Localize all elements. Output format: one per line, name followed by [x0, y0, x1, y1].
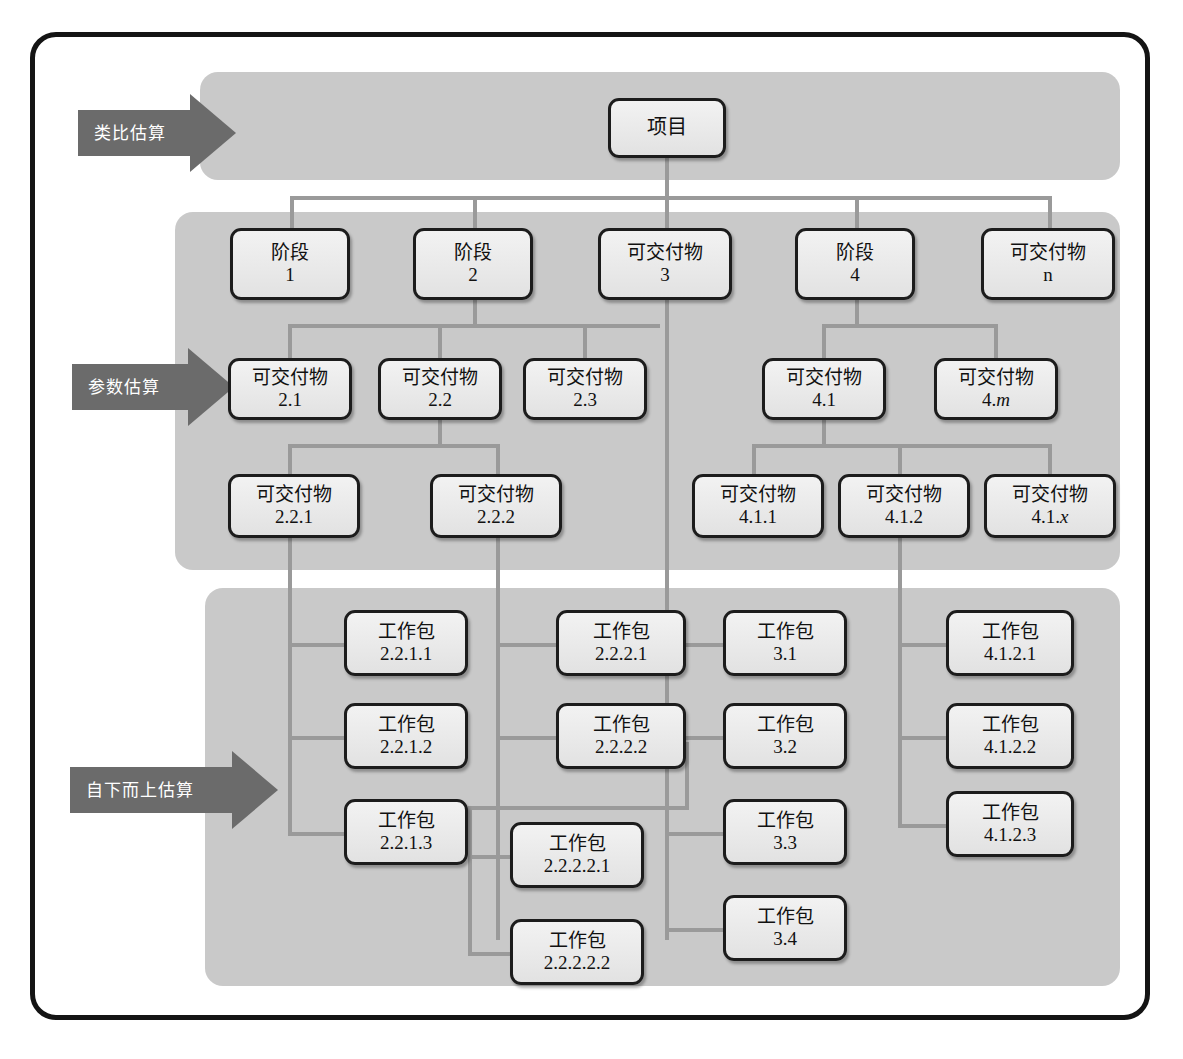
connector-stem-d41 — [822, 420, 826, 446]
node-phase-2-id: 2 — [468, 264, 478, 285]
connector-drop-l1-1 — [290, 196, 294, 228]
connector-branch-wp2222 — [496, 736, 556, 740]
node-deliverable-2-2-1[interactable]: 可交付物 2.2.1 — [228, 474, 360, 538]
node-deliverable-n[interactable]: 可交付物 n — [981, 228, 1115, 300]
connector-branch-wp2221 — [496, 643, 556, 647]
node-deliverable-4-1-id: 4.1 — [812, 389, 836, 410]
node-workpackage-2-2-2-2-2-id: 2.2.2.2.2 — [544, 952, 611, 973]
node-deliverable-4-1-1[interactable]: 可交付物 4.1.1 — [692, 474, 824, 538]
node-workpackage-2-2-2-2-2[interactable]: 工作包 2.2.2.2.2 — [510, 919, 644, 985]
node-workpackage-2-2-1-3[interactable]: 工作包 2.2.1.3 — [344, 799, 468, 865]
connector-stem-d22 — [438, 420, 442, 446]
node-deliverable-2-1-id: 2.1 — [278, 389, 302, 410]
node-deliverable-2-2-id: 2.2 — [428, 389, 452, 410]
node-workpackage-2-2-2-2-id: 2.2.2.2 — [595, 736, 647, 757]
connector-drop-d222 — [496, 444, 500, 474]
connector-drop-d4m — [994, 324, 998, 358]
node-phase-1[interactable]: 阶段 1 — [230, 228, 350, 300]
node-phase-1-id: 1 — [285, 264, 295, 285]
connector-drop-l1-4 — [855, 196, 859, 228]
node-deliverable-4-1-x[interactable]: 可交付物 4.1.x — [984, 474, 1116, 538]
node-deliverable-4-1[interactable]: 可交付物 4.1 — [762, 358, 886, 420]
connector-stem-phase4 — [855, 300, 859, 326]
node-workpackage-3-3-type: 工作包 — [757, 811, 814, 832]
node-deliverable-3[interactable]: 可交付物 3 — [598, 228, 732, 300]
node-phase-2[interactable]: 阶段 2 — [413, 228, 533, 300]
node-workpackage-2-2-1-2[interactable]: 工作包 2.2.1.2 — [344, 703, 468, 769]
node-workpackage-4-1-2-3[interactable]: 工作包 4.1.2.3 — [946, 791, 1074, 857]
node-deliverable-2-1-type: 可交付物 — [252, 368, 328, 389]
node-deliverable-3-id: 3 — [660, 264, 670, 285]
connector-branch-wp2211 — [288, 643, 344, 647]
node-deliverable-4-1-type: 可交付物 — [786, 368, 862, 389]
connector-back-wp2222 — [468, 806, 689, 810]
arrow-parametric-label: 参数估算 — [72, 379, 160, 396]
connector-spine-d221 — [288, 538, 292, 836]
connector-bus-d22 — [288, 444, 500, 448]
node-deliverable-2-1[interactable]: 可交付物 2.1 — [228, 358, 352, 420]
node-workpackage-2-2-2-2-1[interactable]: 工作包 2.2.2.2.1 — [510, 822, 644, 888]
connector-branch-wp22221 — [468, 855, 510, 859]
node-deliverable-2-3[interactable]: 可交付物 2.3 — [523, 358, 647, 420]
connector-root-stem — [665, 158, 669, 200]
connector-drop-d411 — [752, 444, 756, 474]
connector-branch-wp4121 — [898, 643, 946, 647]
arrow-parametric: 参数估算 — [72, 347, 240, 427]
connector-drop-l1-3 — [665, 196, 669, 228]
connector-branch-wp4122 — [898, 736, 946, 740]
node-deliverable-4-1-x-id: 4.1.x — [1032, 506, 1069, 527]
node-deliverable-4-1-x-type: 可交付物 — [1012, 485, 1088, 506]
node-deliverable-2-2-2[interactable]: 可交付物 2.2.2 — [430, 474, 562, 538]
connector-level1-bus — [290, 196, 1052, 200]
node-deliverable-4-1-2-type: 可交付物 — [866, 485, 942, 506]
node-workpackage-3-3[interactable]: 工作包 3.3 — [723, 799, 847, 865]
node-phase-4-type: 阶段 — [836, 243, 874, 264]
connector-drop-d22 — [438, 324, 442, 358]
node-workpackage-3-4[interactable]: 工作包 3.4 — [723, 895, 847, 961]
arrow-bottom-up-label: 自下而上估算 — [70, 782, 194, 799]
connector-drop-d41x — [1048, 444, 1052, 474]
node-deliverable-4-1-2-id: 4.1.2 — [885, 506, 923, 527]
node-workpackage-2-2-2-1[interactable]: 工作包 2.2.2.1 — [556, 610, 686, 676]
node-workpackage-2-2-1-2-id: 2.2.1.2 — [380, 736, 432, 757]
node-deliverable-4-m[interactable]: 可交付物 4.m — [934, 358, 1058, 420]
node-workpackage-3-2[interactable]: 工作包 3.2 — [723, 703, 847, 769]
node-project-label: 项目 — [647, 117, 687, 139]
node-workpackage-2-2-1-2-type: 工作包 — [378, 715, 435, 736]
node-workpackage-4-1-2-3-id: 4.1.2.3 — [984, 824, 1036, 845]
connector-bus-phase2 — [288, 324, 660, 328]
connector-branch-wp2213 — [288, 832, 344, 836]
node-deliverable-2-2[interactable]: 可交付物 2.2 — [378, 358, 502, 420]
node-workpackage-3-1[interactable]: 工作包 3.1 — [723, 610, 847, 676]
node-workpackage-4-1-2-2[interactable]: 工作包 4.1.2.2 — [946, 703, 1074, 769]
node-workpackage-4-1-2-3-type: 工作包 — [982, 803, 1039, 824]
connector-branch-wp33 — [665, 832, 723, 836]
connector-spine-d412 — [898, 538, 902, 828]
node-workpackage-3-2-id: 3.2 — [773, 736, 797, 757]
connector-drop-d21 — [288, 324, 292, 358]
connector-bus-phase4 — [822, 324, 998, 328]
node-deliverable-2-3-id: 2.3 — [573, 389, 597, 410]
arrow-bottom-up: 自下而上估算 — [70, 750, 282, 830]
node-workpackage-3-3-id: 3.3 — [773, 832, 797, 853]
node-workpackage-4-1-2-2-type: 工作包 — [982, 715, 1039, 736]
node-workpackage-2-2-1-3-id: 2.2.1.3 — [380, 832, 432, 853]
node-workpackage-2-2-1-1[interactable]: 工作包 2.2.1.1 — [344, 610, 468, 676]
node-phase-2-type: 阶段 — [454, 243, 492, 264]
wbs-diagram-page: 类比估算 参数估算 自下而上估算 — [0, 0, 1183, 1059]
node-deliverable-n-id: n — [1043, 264, 1053, 285]
node-deliverable-2-2-2-id: 2.2.2 — [477, 506, 515, 527]
node-workpackage-3-4-type: 工作包 — [757, 907, 814, 928]
node-deliverable-4-1-2[interactable]: 可交付物 4.1.2 — [838, 474, 970, 538]
node-phase-4[interactable]: 阶段 4 — [795, 228, 915, 300]
node-workpackage-4-1-2-1[interactable]: 工作包 4.1.2.1 — [946, 610, 1074, 676]
node-workpackage-4-1-2-1-id: 4.1.2.1 — [984, 643, 1036, 664]
connector-branch-wp34 — [665, 928, 723, 932]
node-project[interactable]: 项目 — [608, 98, 726, 158]
arrow-analogous: 类比估算 — [78, 93, 238, 173]
node-deliverable-4-m-id: 4.m — [982, 389, 1010, 410]
connector-drop-d412 — [898, 444, 902, 474]
connector-stem-phase2 — [473, 300, 477, 326]
node-workpackage-2-2-2-2[interactable]: 工作包 2.2.2.2 — [556, 703, 686, 769]
node-workpackage-3-4-id: 3.4 — [773, 928, 797, 949]
